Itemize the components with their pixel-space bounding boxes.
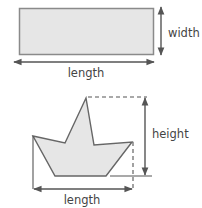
rectangle-width-label: width <box>168 26 200 40</box>
rectangle-length-label: length <box>68 66 105 80</box>
dimension-diagram: width length height length <box>0 0 202 208</box>
rectangle-figure <box>20 9 154 55</box>
boat-figure <box>33 98 132 176</box>
boat-height-label: height <box>152 127 189 141</box>
boat-length-label: length <box>64 193 101 207</box>
